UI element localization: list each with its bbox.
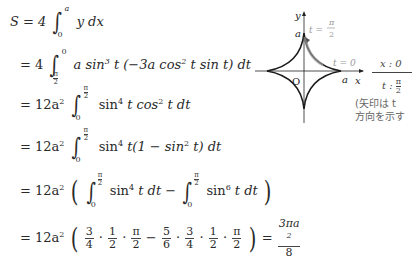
side-table-row2: t : π 2 xyxy=(382,78,401,95)
note-line-2: 方向を示す xyxy=(355,108,405,123)
lower-den: 2 xyxy=(53,79,58,86)
label-x: x xyxy=(355,75,361,86)
side-table-row1: x : 0 xyxy=(380,58,402,69)
label-t-top-num: π xyxy=(328,18,335,27)
line3-prefix: = 12a2 xyxy=(20,97,64,112)
upper-limit: π 2 xyxy=(84,85,89,100)
line4-body: sin4 t(1 − sin2 t) dt xyxy=(99,139,222,154)
fraction: 12 xyxy=(209,226,218,251)
label-t-top: t = xyxy=(309,25,323,35)
right-paren: ) xyxy=(264,175,272,208)
fraction: 12 xyxy=(108,226,117,251)
label-t-top-den: 2 xyxy=(329,30,334,39)
equals-sign: = xyxy=(262,230,273,245)
lower-limit: π 2 xyxy=(53,71,58,86)
astroid-diagram: a a x y O t = π 2 t = 0 xyxy=(255,5,365,130)
line2-body: a sin3 t (−3a cos2 t sin t) dt xyxy=(74,57,251,72)
label-y: y xyxy=(294,10,301,21)
line1-body: y dx xyxy=(77,14,104,29)
label-a-right: a xyxy=(342,74,348,85)
minus-sign: − xyxy=(146,230,157,245)
lower-limit: 0 xyxy=(57,30,62,39)
fraction: 34 xyxy=(85,226,94,251)
line3-body: sin4 t cos2 t dt xyxy=(99,97,191,112)
upper-limit: π 2 xyxy=(84,127,89,142)
fraction: π2 xyxy=(232,226,241,251)
side-table-divider xyxy=(372,72,412,73)
fraction: 34 xyxy=(185,226,194,251)
line1-prefix: S = 4 xyxy=(10,14,46,29)
line5-body-b: sin6 t dt xyxy=(206,183,257,198)
label-origin: O xyxy=(292,76,300,87)
x-axis-arrow-icon xyxy=(359,69,364,73)
label-t-right: t = 0 xyxy=(333,58,356,68)
fraction: π2 xyxy=(131,226,140,251)
fraction: 56 xyxy=(162,226,171,251)
upper-limit: π 2 xyxy=(98,172,103,187)
equation-line-3: = 12a2 ∫ π 2 0 sin4 t cos2 t dt xyxy=(20,91,190,119)
dot: · xyxy=(99,230,103,245)
lower-limit: 0 xyxy=(91,200,96,209)
result-fraction: 3πa28 xyxy=(278,218,301,259)
lower-limit: 0 xyxy=(76,113,81,122)
equation-line-4: = 12a2 ∫ π 2 0 sin4 t(1 − sin2 t) dt xyxy=(20,133,221,161)
y-axis-arrow-icon xyxy=(302,11,306,16)
equation-line-6: = 12a2 ( 34 · 12 · π2 − 56 · 34 · 12 · π… xyxy=(20,218,301,259)
line2-prefix: = 4 xyxy=(20,57,43,72)
left-paren: ( xyxy=(70,222,78,255)
upper-limit: π 2 xyxy=(194,172,199,187)
equation-line-2: = 4 ∫ 0 π 2 a sin3 t (−3a cos2 t sin t) … xyxy=(20,51,251,79)
dot: · xyxy=(122,230,126,245)
line5-prefix: = 12a2 xyxy=(20,183,64,198)
line5-body-a: sin4 t dt − xyxy=(110,183,181,198)
line4-prefix: = 12a2 xyxy=(20,139,64,154)
upper-limit: 0 xyxy=(61,47,66,56)
equation-line-1: S = 4 ∫ a 0 y dx xyxy=(10,8,104,36)
line6-prefix: = 12a2 xyxy=(20,230,64,245)
dot: · xyxy=(223,230,227,245)
left-paren: ( xyxy=(70,175,78,208)
lower-limit: 0 xyxy=(187,200,192,209)
upper-limit: a xyxy=(64,4,69,13)
right-paren: ) xyxy=(248,222,256,255)
equation-line-5: = 12a2 ( ∫ π 2 0 sin4 t dt − ∫ π 2 0 sin… xyxy=(20,175,273,208)
label-a-top: a xyxy=(295,28,301,39)
lower-limit: 0 xyxy=(76,155,81,164)
dot: · xyxy=(176,230,180,245)
dot: · xyxy=(199,230,203,245)
